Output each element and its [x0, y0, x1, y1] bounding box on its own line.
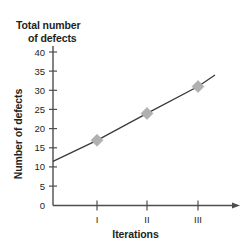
x-tick-labels: I II III [96, 214, 202, 225]
series-line [53, 75, 215, 161]
y-tick-label: 5 [40, 181, 45, 192]
y-tick-label: 35 [34, 66, 45, 77]
x-tick-label: III [194, 214, 202, 225]
data-point-marker[interactable] [91, 134, 103, 146]
y-tick-label: 0 [40, 200, 45, 211]
y-tick-label: 20 [34, 123, 45, 134]
data-point-marker[interactable] [141, 107, 153, 119]
y-tick-label: 30 [34, 85, 45, 96]
x-tick-label: II [144, 214, 149, 225]
y-tick-label: 15 [34, 142, 45, 153]
y-tick-labels: 40 35 30 25 20 15 10 5 0 [34, 47, 45, 211]
y-tick-label: 25 [34, 104, 45, 115]
data-point-markers [91, 81, 204, 147]
y-tick-label: 40 [34, 47, 45, 58]
plot-area: 40 35 30 25 20 15 10 5 0 I II III [0, 0, 250, 250]
defects-line-chart: Total number of defects Number of defect… [0, 0, 250, 250]
x-tick-label: I [96, 214, 99, 225]
y-tick-label: 10 [34, 161, 45, 172]
x-axis-arrow-icon [232, 202, 240, 208]
data-point-marker[interactable] [192, 81, 204, 93]
